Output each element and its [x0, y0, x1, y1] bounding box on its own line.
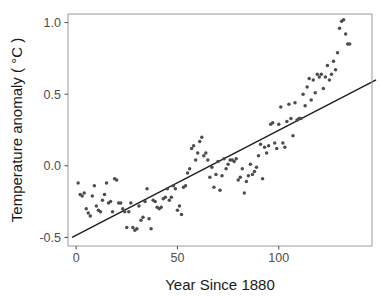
data-point: [249, 163, 253, 167]
data-point: [214, 173, 218, 177]
data-point: [216, 160, 220, 164]
data-point: [328, 78, 332, 82]
data-point: [245, 180, 249, 184]
data-point: [277, 123, 281, 127]
data-point: [326, 64, 330, 68]
data-point: [283, 145, 287, 149]
data-point: [275, 147, 279, 151]
data-point: [172, 184, 176, 188]
data-point: [200, 135, 204, 139]
chart-figure: -0.50.00.51.0 050100 Year Since 1880 Tem…: [0, 0, 382, 296]
data-point: [198, 140, 202, 144]
data-point: [192, 144, 196, 148]
data-point: [251, 173, 255, 177]
data-point: [279, 105, 283, 109]
data-point: [121, 207, 125, 211]
data-point: [232, 160, 236, 164]
data-point: [281, 141, 285, 145]
data-point: [324, 75, 328, 79]
data-point: [164, 196, 168, 200]
data-point: [125, 226, 128, 230]
data-point: [316, 72, 320, 76]
data-point: [127, 210, 131, 214]
data-point: [261, 177, 265, 181]
data-point: [149, 227, 153, 231]
data-point: [119, 201, 123, 205]
y-axis-tick-label: -0.5: [39, 231, 61, 245]
data-point: [259, 143, 263, 147]
data-point: [342, 18, 346, 22]
data-point: [226, 163, 230, 167]
data-point: [109, 200, 113, 204]
data-point: [218, 188, 222, 192]
data-point: [115, 178, 119, 182]
data-point: [135, 227, 139, 231]
x-axis-title: Year Since 1880: [165, 276, 275, 293]
data-point: [206, 158, 210, 162]
data-point: [188, 167, 192, 171]
data-point: [273, 141, 277, 145]
data-point: [320, 72, 324, 76]
data-point: [178, 204, 182, 208]
data-point: [234, 157, 238, 161]
data-point: [196, 151, 200, 155]
data-point: [194, 158, 198, 162]
data-point: [307, 77, 311, 81]
data-point: [344, 32, 348, 36]
data-point: [208, 176, 212, 180]
data-point: [263, 145, 267, 149]
data-point: [131, 226, 135, 230]
data-point: [247, 174, 251, 178]
data-point: [153, 200, 157, 204]
data-point: [91, 194, 95, 198]
data-point: [265, 151, 269, 155]
data-point: [285, 120, 289, 124]
data-point: [271, 121, 275, 125]
data-point: [267, 144, 271, 148]
data-point: [305, 85, 309, 89]
data-point: [287, 102, 291, 106]
data-point: [318, 75, 322, 79]
data-point: [168, 198, 172, 202]
data-point: [82, 191, 86, 195]
data-point: [105, 181, 109, 185]
data-point: [301, 92, 305, 96]
data-point: [137, 204, 141, 208]
y-axis-tick-label: 1.0: [44, 16, 61, 30]
data-point: [174, 187, 178, 191]
data-point: [314, 91, 318, 95]
data-point: [111, 210, 115, 214]
data-point: [186, 171, 190, 175]
data-point: [255, 165, 259, 169]
data-point: [147, 217, 151, 221]
y-axis-title: Temperature anomaly ( °C ): [8, 38, 25, 222]
data-point: [224, 167, 228, 171]
data-point: [76, 181, 80, 185]
data-point: [184, 184, 188, 188]
data-point: [253, 170, 257, 174]
data-point: [334, 68, 338, 72]
data-point: [239, 176, 243, 180]
data-point: [348, 42, 352, 46]
data-point: [236, 178, 240, 182]
data-point: [190, 147, 194, 151]
data-point: [103, 193, 107, 197]
data-point: [212, 186, 216, 190]
x-axis-tick-label: 0: [73, 251, 80, 265]
data-point: [80, 194, 84, 198]
data-point: [180, 213, 184, 217]
data-point: [89, 214, 93, 218]
data-point: [210, 165, 214, 169]
data-point: [303, 104, 307, 108]
data-point: [95, 204, 99, 208]
data-point: [336, 51, 340, 55]
data-point: [330, 72, 334, 76]
data-point: [243, 191, 247, 195]
scatter-plot: -0.50.00.51.0 050100 Year Since 1880 Tem…: [0, 0, 382, 296]
data-point: [241, 167, 245, 171]
data-point: [202, 154, 206, 158]
data-point: [309, 98, 313, 102]
data-point: [166, 187, 170, 191]
data-point: [293, 101, 297, 105]
data-point: [332, 60, 336, 64]
